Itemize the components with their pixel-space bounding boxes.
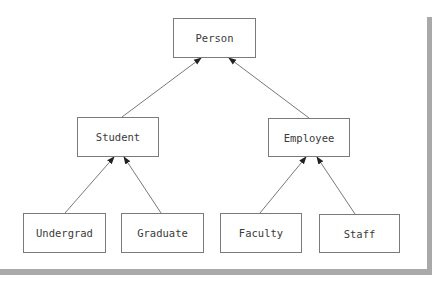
edge-faculty-employee [260,157,306,213]
edge-staff-employee [317,157,355,214]
node-undergrad: Undergrad [23,213,106,253]
node-student: Student [77,117,159,157]
frame-shadow-right [427,17,432,275]
node-graduate: Graduate [121,213,204,253]
node-employee: Employee [268,118,350,157]
node-person: Person [173,18,256,58]
node-faculty: Faculty [220,213,302,253]
diagram-canvas: Person Student Employee Undergrad Gradua… [0,0,443,284]
edge-employee-person [229,58,309,118]
node-staff: Staff [319,214,400,253]
frame-shadow-bottom [0,269,432,275]
edge-undergrad-student [65,157,114,213]
edge-graduate-student [124,157,161,213]
edge-student-person [122,58,201,117]
